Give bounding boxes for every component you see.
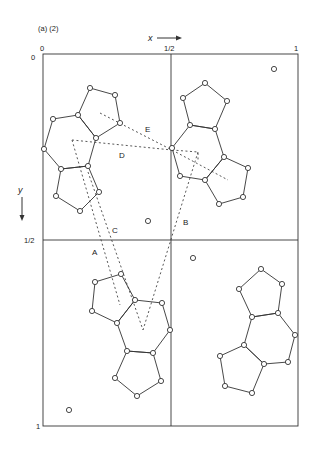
y-tick-1: 1 [36,422,40,431]
ring [117,300,170,353]
atom-icon [202,80,207,85]
y-axis-label: y [17,185,23,195]
atom-icon [177,173,182,178]
ring [244,313,295,364]
contact-label-d: D [119,151,125,160]
atom-icon [169,145,174,150]
atom-icon [212,126,217,131]
atom-icon [285,359,290,364]
atom-icon [118,271,123,276]
atom-icon [50,116,55,121]
atom-icon [41,146,46,151]
unit-cell-frame [43,54,298,426]
atom-icon [258,266,263,271]
atom-icon [114,320,119,325]
atom-icon [221,154,226,159]
atom-icon [222,383,227,388]
x-axis-label: x [147,33,153,43]
atom-icon [134,393,139,398]
x-tick-1: 1 [294,44,298,53]
atom-icon [117,120,122,125]
atom-icon [245,165,250,170]
atom-icon [87,85,92,90]
atom-icon [167,327,172,332]
x-tick-0: 0 [40,44,44,53]
atom-icon [89,308,94,313]
atom-icon [96,189,101,194]
atom-icon [58,166,63,171]
atoms [41,66,297,412]
contact-label-c: C [112,226,118,235]
atom-icon [112,375,117,380]
atom-icon [132,297,137,302]
isolated-atom-icon [190,255,195,260]
atom-icon [75,112,80,117]
molecule-bottom-left [92,274,170,396]
ring [92,274,135,323]
contact-label-e: E [145,125,150,134]
atom-icon [216,201,221,206]
ring [239,269,282,317]
atom-icon [180,95,185,100]
ring [44,115,96,169]
y-tick-0: 0 [31,53,35,62]
contact-line-d [72,140,172,150]
panel-label: (a) (2) [38,24,59,33]
atom-icon [77,208,82,213]
atom-icon [92,279,97,284]
atom-icon [249,390,254,395]
x-tick-half: 1/2 [164,44,174,53]
atom-icon [159,300,164,305]
atom-icon [85,163,90,168]
ring [56,166,99,211]
atom-icon [240,194,245,199]
atom-icon [93,135,98,140]
isolated-atom-icon [66,407,71,412]
contact-label-b: B [183,218,188,227]
isolated-atom-icon [145,218,150,223]
crystal-packing-diagram: (a) (2) x 0 1/2 1 0 1/2 1 y [0,0,316,453]
arrow-down-icon [20,197,25,221]
atom-icon [112,92,117,97]
atom-icon [124,348,129,353]
arrow-right-icon [157,36,182,41]
ring [115,351,161,396]
molecule-bonds [44,83,295,396]
x-axis-title: x [147,33,182,43]
atom-icon [224,98,229,103]
atom-icon [275,310,280,315]
atom-icon [236,286,241,291]
atom-icon [187,122,192,127]
atom-icon [217,353,222,358]
atom-icon [249,314,254,319]
atom-icon [53,193,58,198]
molecule-bottom-right [220,269,295,393]
contact-line-b [143,152,198,330]
molecule-top-left [44,88,120,211]
y-axis-title: y [17,185,25,221]
atom-icon [261,361,266,366]
isolated-atom-icon [271,66,276,71]
atom-icon [241,342,246,347]
atom-icon [279,281,284,286]
atom-icon [150,350,155,355]
atom-icon [202,177,207,182]
atom-icon [292,332,297,337]
y-tick-half: 1/2 [24,236,34,245]
contact-label-a: A [92,248,98,257]
atom-icon [158,378,163,383]
molecule-top-right [172,83,248,204]
